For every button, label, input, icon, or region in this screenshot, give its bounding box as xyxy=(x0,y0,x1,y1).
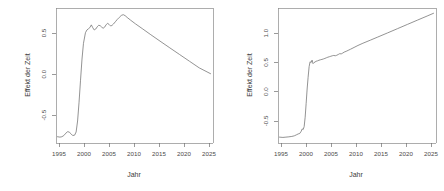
x-ticklabel: 1995 xyxy=(274,150,288,157)
x-ticklabel: 2015 xyxy=(374,150,388,157)
x-ticklabel: 2000 xyxy=(299,150,313,157)
y-ticklabel: -0.5 xyxy=(262,115,269,126)
x-ticklabel: 2005 xyxy=(102,150,116,157)
x-ticklabel: 2025 xyxy=(202,150,216,157)
data-curve-left xyxy=(57,15,210,137)
y-ticklabel: 1.0 xyxy=(262,28,269,37)
plot-right: 1995 2000 2005 2010 2015 2020 2025 -0.5 … xyxy=(222,0,444,191)
data-curve-right xyxy=(279,13,433,137)
x-ticklabel: 2025 xyxy=(424,150,438,157)
figure-two-panel-plots: 1995 2000 2005 2010 2015 2020 2025 -0.5 … xyxy=(0,0,444,191)
y-ticklabel: -0.5 xyxy=(40,109,47,120)
x-axis-title: Jahr xyxy=(127,171,141,178)
plot-box-left xyxy=(56,8,213,143)
y-axis-title: Effekt der Zeit xyxy=(24,53,31,97)
x-ticklabel: 2010 xyxy=(349,150,363,157)
x-axis-ticks-right xyxy=(281,143,431,147)
y-ticklabel: 0.0 xyxy=(40,69,47,78)
panel-right: 1995 2000 2005 2010 2015 2020 2025 -0.5 … xyxy=(222,0,444,191)
x-ticklabel: 1995 xyxy=(52,150,66,157)
panel-left: 1995 2000 2005 2010 2015 2020 2025 -0.5 … xyxy=(0,0,222,191)
x-ticklabel: 2005 xyxy=(324,150,338,157)
x-ticklabel: 2020 xyxy=(177,150,191,157)
y-ticklabel: 0.5 xyxy=(262,58,269,67)
x-ticklabel: 2010 xyxy=(127,150,141,157)
y-axis-ticks-right xyxy=(274,33,278,121)
plot-left: 1995 2000 2005 2010 2015 2020 2025 -0.5 … xyxy=(0,0,222,191)
x-axis-ticks-left xyxy=(59,143,209,147)
x-ticklabel: 2020 xyxy=(399,150,413,157)
y-axis-title: Effekt der Zeit xyxy=(246,53,253,97)
plot-box-right xyxy=(278,8,436,143)
y-ticklabel: 0.0 xyxy=(262,87,269,96)
y-ticklabel: 0.5 xyxy=(40,28,47,37)
x-ticklabel: 2000 xyxy=(77,150,91,157)
x-axis-title: Jahr xyxy=(349,171,363,178)
x-ticklabel: 2015 xyxy=(152,150,166,157)
y-axis-ticks-left xyxy=(52,33,56,115)
